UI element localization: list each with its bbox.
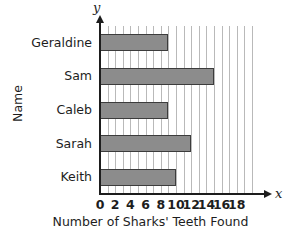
bar [100, 102, 168, 119]
x-axis-arrowhead-icon [264, 190, 272, 198]
y-axis-tick-labels: GeraldineSamCalebSarahKeith [18, 32, 94, 194]
x-axis-tick-label: 2 [111, 197, 120, 212]
x-axis-line [99, 193, 265, 195]
gridline [206, 26, 207, 194]
bar [100, 68, 214, 85]
x-axis-tick-label: 0 [96, 197, 105, 212]
gridline [214, 26, 215, 194]
x-axis-tick-label: 8 [156, 197, 165, 212]
gridline [252, 26, 253, 194]
plot-area [100, 26, 252, 194]
y-axis-tick-label: Geraldine [31, 36, 92, 50]
gridline [184, 26, 185, 194]
x-axis-variable-label: x [275, 186, 282, 201]
y-axis-arrowhead-icon [96, 15, 104, 23]
x-axis-tick-label: 18 [228, 197, 245, 212]
y-axis-tick-label: Sarah [56, 137, 92, 151]
x-axis-tick-labels: 024681012141618 [100, 197, 260, 213]
bar [100, 169, 176, 186]
gridline [229, 26, 230, 194]
bar [100, 135, 191, 152]
x-axis-tick-label: 6 [141, 197, 150, 212]
y-axis-line [99, 22, 101, 194]
gridline [176, 26, 177, 194]
gridline [222, 26, 223, 194]
gridline [244, 26, 245, 194]
x-axis-tick-label: 4 [126, 197, 135, 212]
y-axis-tick-label: Sam [64, 69, 92, 83]
y-axis-variable-label: y [93, 0, 100, 15]
y-axis-tick-label: Caleb [57, 103, 93, 117]
gridline [237, 26, 238, 194]
x-axis-title: Number of Sharks' Teeth Found [0, 214, 301, 229]
y-axis-tick-label: Keith [60, 170, 92, 184]
bar [100, 34, 168, 51]
horizontal-bar-chart: Name GeraldineSamCalebSarahKeith y x 024… [0, 0, 301, 246]
gridline [191, 26, 192, 194]
gridline [199, 26, 200, 194]
